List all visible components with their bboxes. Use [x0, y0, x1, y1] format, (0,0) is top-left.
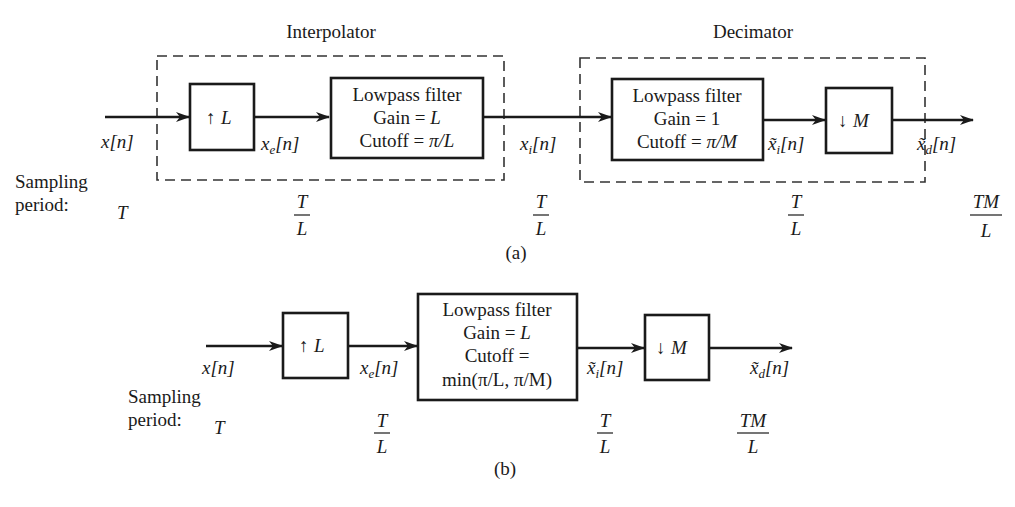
signal-x-b: x[n] [201, 357, 235, 378]
caption-a: (a) [505, 242, 526, 264]
svg-text:T: T [600, 410, 612, 431]
svg-text:L: L [220, 107, 232, 128]
signal-xe: xe[n] [260, 133, 300, 157]
svg-text:T: T [297, 191, 309, 212]
svg-text:T: T [377, 410, 389, 431]
svg-text:L: L [313, 335, 325, 356]
signal-xi-tilde: x̃i[n] [767, 133, 804, 157]
up-arrow-icon: ↑ [206, 107, 216, 128]
svg-text:L: L [376, 436, 388, 457]
down-arrow-icon: ↓ [838, 110, 848, 131]
signal-xi-tilde-b: x̃i[n] [586, 357, 623, 381]
svg-text:min(π/L, π/M): min(π/L, π/M) [442, 369, 552, 391]
svg-text:L: L [535, 218, 547, 239]
svg-text:L: L [296, 218, 308, 239]
svg-text:T: T [791, 191, 803, 212]
period-b-0: T [214, 417, 226, 438]
lowpass-filter-combined: Lowpass filter Gain = L Cutoff = min(π/L… [418, 294, 577, 400]
svg-text:Cutoff = π/M: Cutoff = π/M [637, 131, 738, 152]
svg-text:TM: TM [740, 410, 768, 431]
period-3: T L [788, 191, 804, 239]
svg-text:Cutoff =: Cutoff = [465, 345, 530, 366]
diagram-a: Interpolator Decimator ↑ L Lowpass filte… [15, 21, 1002, 264]
signal-xi: xi[n] [519, 133, 556, 157]
svg-text:Cutoff = π/L: Cutoff = π/L [360, 130, 455, 151]
svg-text:L: L [980, 220, 992, 241]
period-b-3: TM L [737, 410, 769, 457]
svg-text:Lowpass filter: Lowpass filter [352, 84, 462, 105]
svg-text:M: M [670, 337, 688, 358]
sampling-label: Sampling [15, 171, 88, 192]
svg-text:Lowpass filter: Lowpass filter [632, 85, 742, 106]
svg-text:Gain = L: Gain = L [373, 107, 441, 128]
svg-text:TM: TM [973, 191, 1001, 212]
interpolator-label: Interpolator [286, 21, 376, 42]
svg-text:L: L [747, 436, 759, 457]
signal-xe-b: xe[n] [359, 357, 399, 381]
period-0: T [117, 202, 129, 223]
sampling-label-b: Sampling [128, 386, 201, 407]
svg-text:L: L [790, 218, 802, 239]
period-b-1: T L [374, 410, 390, 457]
lowpass-filter-decimator: Lowpass filter Gain = 1 Cutoff = π/M [612, 79, 763, 160]
multirate-diagram: Interpolator Decimator ↑ L Lowpass filte… [0, 0, 1015, 507]
downsampler-block: ↓ M [826, 88, 892, 153]
svg-text:Gain = L: Gain = L [463, 322, 531, 343]
caption-b: (b) [494, 458, 516, 480]
signal-x: x[n] [100, 131, 134, 152]
diagram-b: ↑ L Lowpass filter Gain = L Cutoff = min… [128, 294, 792, 480]
downsampler-block-b: ↓ M [645, 315, 709, 380]
lowpass-filter-interpolator: Lowpass filter Gain = L Cutoff = π/L [331, 78, 483, 158]
svg-text:Gain = 1: Gain = 1 [654, 108, 721, 129]
period-4: TM L [970, 191, 1002, 241]
svg-text:period:: period: [128, 409, 182, 430]
svg-text:T: T [536, 191, 548, 212]
signal-xd-tilde: x̃d[n] [916, 133, 956, 157]
svg-text:Lowpass filter: Lowpass filter [442, 299, 552, 320]
decimator-label: Decimator [713, 21, 794, 42]
signal-xd-tilde-b: x̃d[n] [749, 357, 789, 381]
period-1: T L [294, 191, 310, 239]
period-b-2: T L [597, 410, 613, 457]
up-arrow-icon: ↑ [299, 335, 309, 356]
upsampler-block-b: ↑ L [283, 313, 348, 378]
svg-text:period:: period: [15, 194, 69, 215]
down-arrow-icon: ↓ [656, 337, 666, 358]
svg-text:L: L [599, 436, 611, 457]
period-2: T L [533, 191, 549, 239]
svg-text:M: M [852, 110, 870, 131]
upsampler-block: ↑ L [190, 84, 254, 150]
